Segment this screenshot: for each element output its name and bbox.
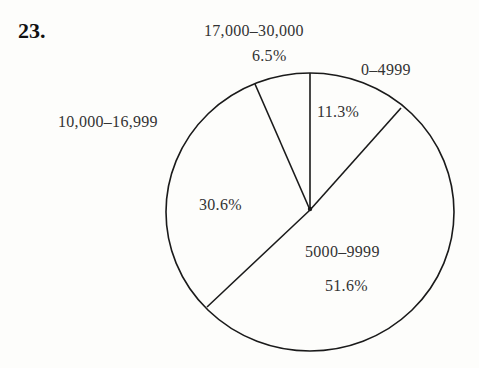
- slice-percent-17000-30000: 6.5%: [252, 47, 287, 65]
- slice-label-17000-30000: 17,000–30,000: [204, 22, 304, 40]
- pie-center: [308, 207, 312, 211]
- divider-0-4999: [310, 108, 401, 210]
- slice-percent-0-4999: 11.3%: [317, 103, 359, 121]
- pie-chart: [0, 0, 479, 368]
- slice-percent-5000-9999: 51.6%: [325, 277, 368, 295]
- slice-percent-10000-16999: 30.6%: [199, 196, 242, 214]
- slice-label-5000-9999: 5000–9999: [305, 243, 380, 261]
- slice-label-0-4999: 0–4999: [361, 61, 411, 79]
- divider-17000: [255, 84, 310, 210]
- slice-label-10000-16999: 10,000–16,999: [58, 113, 158, 131]
- divider-lower-left: [207, 210, 310, 307]
